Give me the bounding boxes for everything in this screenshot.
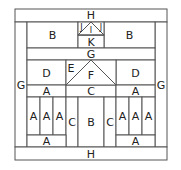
label-a-r2: A	[132, 110, 140, 123]
label-d-left: D	[42, 67, 50, 80]
label-a-r1: A	[119, 110, 127, 123]
label-h-top: H	[87, 9, 95, 22]
label-g-mid: G	[87, 48, 96, 61]
label-b-center: B	[87, 116, 95, 129]
label-i: I	[90, 26, 92, 35]
label-h-bottom: H	[87, 148, 95, 161]
label-b-right: B	[126, 29, 134, 42]
label-j-left: J	[79, 23, 82, 32]
label-g-left: G	[17, 79, 26, 92]
label-j-right: J	[99, 23, 102, 32]
label-c-left: C	[68, 116, 76, 129]
quilt-diagram: GGBBKDDACAAAACBCAAAAAH H I J J G E F	[0, 0, 181, 170]
label-e: E	[68, 62, 75, 75]
label-a-left-bottom: A	[43, 135, 51, 148]
label-a-l1: A	[30, 110, 38, 123]
label-a-right-band: A	[132, 85, 140, 98]
label-a-l3: A	[56, 110, 64, 123]
label-g-right: G	[157, 79, 166, 92]
label-b-left: B	[49, 29, 57, 42]
label-a-r3: A	[145, 110, 153, 123]
label-d-right: D	[131, 67, 139, 80]
label-a-right-bottom: A	[132, 135, 140, 148]
label-c-right: C	[106, 116, 114, 129]
label-a-left-band: A	[43, 85, 51, 98]
label-a-l2: A	[43, 110, 51, 123]
label-f: F	[88, 69, 94, 82]
label-c-mid-band: C	[87, 85, 95, 98]
